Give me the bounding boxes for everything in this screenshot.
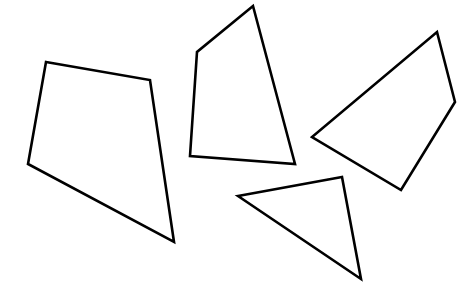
- triangle-bottom: [238, 177, 361, 279]
- quadrilateral-left: [28, 62, 174, 242]
- quadrilateral-center: [190, 6, 295, 164]
- shapes-canvas: [0, 0, 474, 301]
- quadrilateral-right: [312, 32, 455, 190]
